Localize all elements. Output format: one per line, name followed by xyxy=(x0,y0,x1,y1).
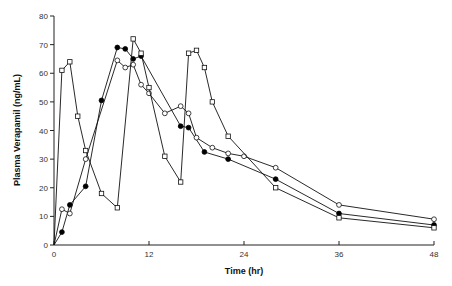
data-point-filled-circle xyxy=(60,230,65,235)
data-point-filled-circle xyxy=(337,211,342,216)
x-tick-label: 0 xyxy=(52,250,57,259)
data-point-open-square xyxy=(131,37,135,41)
data-point-open-square xyxy=(210,100,214,104)
data-point-filled-circle xyxy=(115,45,120,50)
y-tick-label: 0 xyxy=(44,241,49,250)
verapamil-line-chart: 01020304050607080 Plasma Verapamil (ng/m… xyxy=(0,0,452,286)
data-point-open-square xyxy=(273,186,277,190)
y-tick-label: 10 xyxy=(39,212,48,221)
x-tick-label: 48 xyxy=(430,250,439,259)
data-point-open-circle xyxy=(210,145,215,150)
data-point-filled-circle xyxy=(273,177,278,182)
y-tick-label: 80 xyxy=(39,12,48,21)
data-point-open-circle xyxy=(115,58,120,63)
series-open-circle xyxy=(54,58,436,245)
data-point-open-circle xyxy=(139,82,144,87)
data-point-open-square xyxy=(115,206,119,210)
data-point-open-square xyxy=(76,114,80,118)
data-point-open-square xyxy=(432,226,436,230)
y-tick-label: 50 xyxy=(39,98,48,107)
series-line xyxy=(54,48,434,246)
y-tick-label: 60 xyxy=(39,69,48,78)
data-point-open-circle xyxy=(273,165,278,170)
data-point-filled-circle xyxy=(99,98,104,103)
data-point-filled-circle xyxy=(202,150,207,155)
y-tick-label: 70 xyxy=(39,41,48,50)
x-axis: 012243648 Time (hr) xyxy=(52,241,439,276)
data-point-open-circle xyxy=(123,65,128,70)
data-point-open-square xyxy=(68,60,72,64)
y-tick-label: 20 xyxy=(39,184,48,193)
data-point-open-circle xyxy=(83,157,88,162)
x-axis-ticks: 012243648 xyxy=(52,241,439,259)
data-point-filled-circle xyxy=(178,124,183,129)
data-point-open-square xyxy=(83,148,87,152)
data-point-open-circle xyxy=(194,135,199,140)
data-point-open-square xyxy=(186,51,190,55)
data-point-filled-circle xyxy=(123,47,128,52)
data-point-open-square xyxy=(178,180,182,184)
x-tick-label: 24 xyxy=(240,250,249,259)
data-point-open-circle xyxy=(337,203,342,208)
x-tick-label: 12 xyxy=(145,250,154,259)
x-tick-label: 36 xyxy=(335,250,344,259)
data-point-open-square xyxy=(99,191,103,195)
y-axis: 01020304050607080 Plasma Verapamil (ng/m… xyxy=(12,12,54,250)
data-point-open-square xyxy=(139,51,143,55)
data-point-open-circle xyxy=(131,62,136,67)
data-point-open-square xyxy=(163,154,167,158)
y-tick-label: 40 xyxy=(39,127,48,136)
y-tick-label: 30 xyxy=(39,155,48,164)
data-point-open-square xyxy=(226,134,230,138)
data-point-open-circle xyxy=(432,217,437,222)
data-point-open-circle xyxy=(226,151,231,156)
data-point-open-square xyxy=(147,85,151,89)
series-filled-circle xyxy=(54,45,436,245)
data-point-filled-circle xyxy=(83,184,88,189)
data-point-open-circle xyxy=(162,111,167,116)
y-axis-title: Plasma Verapamil (ng/mL) xyxy=(12,74,22,186)
data-point-open-square xyxy=(337,216,341,220)
data-point-open-square xyxy=(194,48,198,52)
x-axis-title: Time (hr) xyxy=(225,266,263,276)
data-point-filled-circle xyxy=(226,157,231,162)
data-point-filled-circle xyxy=(186,125,191,130)
data-point-open-circle xyxy=(60,207,65,212)
data-point-open-square xyxy=(202,65,206,69)
data-point-open-circle xyxy=(178,104,183,109)
plot-area xyxy=(54,37,436,245)
data-point-open-circle xyxy=(186,111,191,116)
data-point-open-circle xyxy=(67,211,72,216)
y-axis-ticks: 01020304050607080 xyxy=(39,12,54,250)
data-point-open-square xyxy=(60,68,64,72)
